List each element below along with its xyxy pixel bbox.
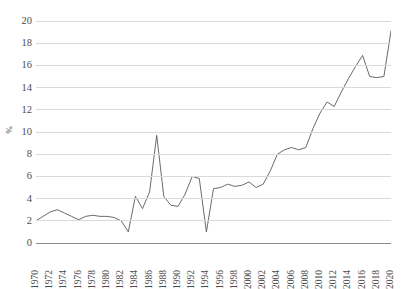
x-tick-label: 1972 xyxy=(44,270,54,289)
x-tick-label: 1992 xyxy=(186,270,196,289)
x-tick-label: 2002 xyxy=(257,270,267,289)
x-tick-label: 1990 xyxy=(172,270,182,289)
gridline xyxy=(36,176,391,177)
gridline xyxy=(36,132,391,133)
y-tick-label: 16 xyxy=(4,60,32,70)
x-tick-label: 2020 xyxy=(385,270,395,289)
x-tick-label: 1994 xyxy=(200,270,210,289)
x-axis-line xyxy=(36,243,391,244)
gridline xyxy=(36,154,391,155)
x-tick-label: 2012 xyxy=(328,270,338,289)
y-tick-label: 14 xyxy=(4,83,32,93)
gridline xyxy=(36,87,391,88)
x-tick-label: 1984 xyxy=(129,270,139,289)
x-tick-label: 1976 xyxy=(73,270,83,289)
gridline xyxy=(36,198,391,199)
x-tick-label: 1970 xyxy=(30,270,40,289)
y-tick-label: 20 xyxy=(4,16,32,26)
gridline xyxy=(36,21,391,22)
y-tick-label: 4 xyxy=(4,194,32,204)
x-tick-label: 2010 xyxy=(314,270,324,289)
x-tick-label: 2018 xyxy=(371,270,381,289)
plot-area xyxy=(36,21,391,243)
line-chart: % 20181614121086420 19701972197419761978… xyxy=(0,0,402,289)
x-tick-label: 1982 xyxy=(115,270,125,289)
x-tick-label: 1996 xyxy=(215,270,225,289)
x-tick-label: 1974 xyxy=(58,270,68,289)
x-tick-label: 1978 xyxy=(87,270,97,289)
x-axis-tick-labels: 1970197219741976197819801982198419861988… xyxy=(36,246,391,289)
x-tick-label: 2014 xyxy=(342,270,352,289)
x-tick-label: 1980 xyxy=(101,270,111,289)
gridline xyxy=(36,43,391,44)
x-tick-label: 1986 xyxy=(144,270,154,289)
y-tick-label: 10 xyxy=(4,127,32,137)
y-tick-label: 6 xyxy=(4,171,32,181)
y-axis-tick-labels: 20181614121086420 xyxy=(2,0,32,289)
x-tick-label: 1998 xyxy=(229,270,239,289)
x-tick-label: 2004 xyxy=(271,270,281,289)
x-tick-label: 2000 xyxy=(243,270,253,289)
gridline xyxy=(36,220,391,221)
y-tick-label: 18 xyxy=(4,38,32,48)
y-tick-label: 8 xyxy=(4,149,32,159)
y-tick-label: 12 xyxy=(4,105,32,115)
x-tick-label: 2008 xyxy=(300,270,310,289)
x-tick-label: 1988 xyxy=(158,270,168,289)
gridline xyxy=(36,109,391,110)
x-tick-label: 2016 xyxy=(357,270,367,289)
x-tick-label: 2006 xyxy=(286,270,296,289)
gridline xyxy=(36,65,391,66)
y-tick-label: 0 xyxy=(4,238,32,248)
y-tick-label: 2 xyxy=(4,216,32,226)
